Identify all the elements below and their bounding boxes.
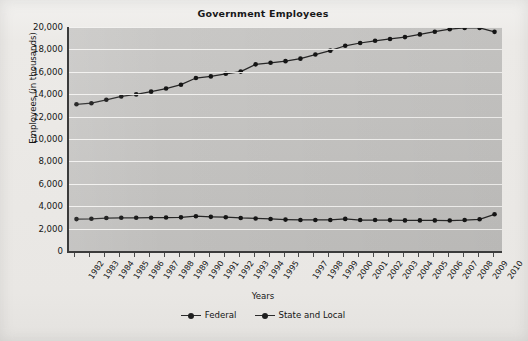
gridline xyxy=(69,206,502,207)
data-point xyxy=(462,218,467,223)
data-point xyxy=(283,217,288,222)
x-axis-tick-label: 1998 xyxy=(326,259,345,281)
legend-label: State and Local xyxy=(279,310,346,320)
y-axis-tick-label: 8,000 xyxy=(7,156,63,166)
data-point xyxy=(268,60,273,65)
data-point xyxy=(223,215,228,220)
x-axis-tick-label: 1999 xyxy=(341,259,360,281)
gridline xyxy=(69,49,502,50)
x-axis-tick-mark xyxy=(403,253,404,257)
x-axis-tick-mark xyxy=(89,253,90,257)
data-point xyxy=(433,218,438,223)
x-axis-tick-label: 1997 xyxy=(311,259,330,281)
data-point xyxy=(194,214,199,219)
legend-item[interactable]: State and Local xyxy=(255,310,346,320)
x-axis-tick-label: 1987 xyxy=(162,259,181,281)
x-axis-tick-mark xyxy=(254,253,255,257)
gridline xyxy=(69,94,502,95)
gridline xyxy=(69,161,502,162)
data-point xyxy=(418,32,423,37)
x-axis-tick-mark xyxy=(164,253,165,257)
data-point xyxy=(119,216,124,221)
data-point xyxy=(313,52,318,57)
data-point xyxy=(328,218,333,223)
data-point xyxy=(134,215,139,220)
x-axis-tick-mark xyxy=(119,253,120,257)
data-point xyxy=(343,217,348,222)
data-point xyxy=(194,76,199,81)
x-axis-tick-label: 1988 xyxy=(177,259,196,281)
x-axis-tick-mark xyxy=(269,253,270,257)
x-axis-tick-label: 1982 xyxy=(87,259,106,281)
legend-item[interactable]: Federal xyxy=(181,310,237,320)
x-axis-tick-label: 1983 xyxy=(102,259,121,281)
y-axis-tick-label: 12,000 xyxy=(7,112,63,122)
gridline xyxy=(69,184,502,185)
gridline xyxy=(69,72,502,73)
data-point xyxy=(477,217,482,222)
x-axis-tick-mark xyxy=(343,253,344,257)
y-axis-tick-label: 4,000 xyxy=(7,201,63,211)
data-point xyxy=(433,29,438,34)
x-axis-tick-mark xyxy=(328,253,329,257)
x-axis-tick-mark xyxy=(463,253,464,257)
y-axis-tick-label: 6,000 xyxy=(7,179,63,189)
data-point xyxy=(104,216,109,221)
y-axis-tick-label: 2,000 xyxy=(7,224,63,234)
x-axis-tick-label: 1985 xyxy=(132,259,151,281)
x-axis-title: Years xyxy=(5,291,521,301)
data-point xyxy=(283,59,288,64)
x-axis-tick-mark xyxy=(298,253,299,257)
plot-area xyxy=(67,27,502,253)
gridline xyxy=(69,229,502,230)
x-axis-tick-mark xyxy=(448,253,449,257)
x-axis-tick-mark xyxy=(284,253,285,257)
y-axis-tick-label: 0 xyxy=(7,246,63,256)
x-axis-tick-label: 1984 xyxy=(117,259,136,281)
x-axis-tick-mark xyxy=(313,253,314,257)
data-point xyxy=(358,41,363,46)
data-point xyxy=(373,39,378,44)
legend-label: Federal xyxy=(205,310,237,320)
x-axis-tick-label: 2004 xyxy=(416,259,435,281)
x-axis-tick-label: 2000 xyxy=(356,259,375,281)
chart-legend: FederalState and Local xyxy=(5,310,521,320)
x-axis-tick-mark xyxy=(358,253,359,257)
data-point xyxy=(179,82,184,87)
x-axis-tick-mark xyxy=(373,253,374,257)
y-axis-tick-label: 16,000 xyxy=(7,67,63,77)
data-point xyxy=(164,215,169,220)
x-axis-tick-mark xyxy=(493,253,494,257)
data-point xyxy=(89,217,94,222)
data-point xyxy=(447,218,452,223)
chart-container: Government Employees Employees (in thous… xyxy=(5,4,521,334)
data-point xyxy=(253,216,258,221)
data-point xyxy=(403,218,408,223)
gridline xyxy=(69,117,502,118)
data-point xyxy=(492,30,497,35)
x-axis-tick-mark xyxy=(209,253,210,257)
y-axis-ticks: 20,00018,00016,00014,00012,00010,0008,00… xyxy=(5,27,63,251)
legend-marker-icon xyxy=(181,311,201,319)
data-point xyxy=(298,56,303,61)
x-axis-tick-label: 1989 xyxy=(192,259,211,281)
x-axis-tick-mark xyxy=(74,253,75,257)
gridline xyxy=(69,139,502,140)
data-point xyxy=(149,215,154,220)
data-point xyxy=(179,215,184,220)
x-axis-tick-mark xyxy=(134,253,135,257)
y-axis-tick-label: 18,000 xyxy=(7,44,63,54)
x-axis-tick-label: 2002 xyxy=(386,259,405,281)
x-axis-tick-mark xyxy=(149,253,150,257)
data-point xyxy=(104,98,109,103)
data-point xyxy=(298,218,303,223)
data-point xyxy=(373,218,378,223)
x-axis-tick-mark xyxy=(194,253,195,257)
x-axis-tick-mark xyxy=(104,253,105,257)
y-axis-tick-label: 14,000 xyxy=(7,89,63,99)
series-line-state-and-local xyxy=(76,28,494,104)
data-point xyxy=(492,212,497,217)
data-point xyxy=(253,62,258,67)
data-point xyxy=(403,35,408,40)
chart-title: Government Employees xyxy=(5,8,521,19)
